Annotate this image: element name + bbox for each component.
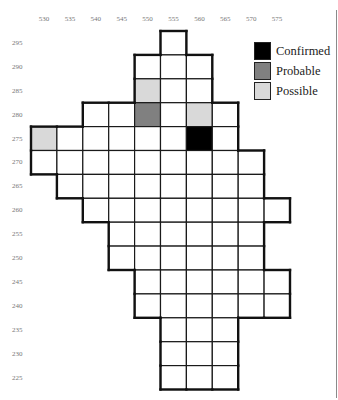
x-tick-label: 535 [57, 15, 83, 23]
x-tick-label: 550 [135, 15, 161, 23]
y-tick-label: 260 [12, 206, 36, 214]
x-tick-label: 565 [212, 15, 238, 23]
frame-divider-line [336, 10, 337, 398]
y-tick-label: 285 [12, 87, 36, 95]
grid-cell [212, 127, 238, 151]
grid-cell [161, 222, 187, 246]
grid-cell [186, 246, 212, 270]
grid-cell [57, 151, 83, 175]
grid-cell [161, 31, 187, 55]
grid-cell [135, 127, 161, 151]
grid-cell [212, 246, 238, 270]
grid-cell [212, 222, 238, 246]
grid-cell [186, 174, 212, 198]
legend-item-probable: Probable [254, 62, 338, 82]
grid-cell [135, 294, 161, 318]
y-tick-label: 250 [12, 254, 36, 262]
grid-cell [264, 270, 290, 294]
y-tick-label: 230 [12, 350, 36, 358]
grid-cell [212, 174, 238, 198]
y-tick-label: 290 [12, 63, 36, 71]
grid-cell [135, 222, 161, 246]
grid-cell [83, 174, 109, 198]
y-tick-label: 235 [12, 326, 36, 334]
legend-item-confirmed: Confirmed [254, 42, 338, 62]
legend-item-possible: Possible [254, 82, 338, 102]
grid-cell [212, 198, 238, 222]
x-tick-label: 560 [186, 15, 212, 23]
grid-cell [83, 151, 109, 175]
grid-cell [161, 246, 187, 270]
legend-label-confirmed: Confirmed [276, 43, 330, 59]
y-tick-label: 245 [12, 278, 36, 286]
grid-cell [57, 174, 83, 198]
probable-swatch [254, 62, 271, 80]
y-tick-label: 240 [12, 302, 36, 310]
grid-cell [238, 174, 264, 198]
grid-cell [161, 198, 187, 222]
grid-cell [186, 151, 212, 175]
legend-label-probable: Probable [276, 63, 320, 79]
grid-cell [264, 198, 290, 222]
x-tick-label: 575 [264, 15, 290, 23]
y-tick-label: 280 [12, 111, 36, 119]
grid-cell [109, 127, 135, 151]
highlighted-grid-cell [186, 127, 212, 151]
grid-cell [238, 222, 264, 246]
y-tick-label: 255 [12, 230, 36, 238]
highlighted-grid-cell [186, 103, 212, 127]
x-tick-label: 540 [83, 15, 109, 23]
x-tick-label: 530 [31, 15, 57, 23]
grid-cell [212, 342, 238, 366]
grid-cell [135, 174, 161, 198]
x-tick-label: 545 [109, 15, 135, 23]
grid-cell [161, 151, 187, 175]
highlighted-grid-cell [135, 79, 161, 103]
grid-cell [238, 246, 264, 270]
grid-cell [161, 366, 187, 390]
grid-cell [186, 294, 212, 318]
grid-cell [135, 55, 161, 79]
grid-cell [83, 103, 109, 127]
grid-cell [212, 366, 238, 390]
grid-cell [109, 198, 135, 222]
grid-cell [83, 198, 109, 222]
grid-cell [161, 55, 187, 79]
grid-cell [186, 342, 212, 366]
grid-cell [212, 151, 238, 175]
grid-cell [212, 103, 238, 127]
grid-cell [161, 174, 187, 198]
grid-cell [238, 294, 264, 318]
grid-cell [186, 366, 212, 390]
grid-cell [83, 127, 109, 151]
grid-cell [109, 246, 135, 270]
highlighted-grid-cell [135, 103, 161, 127]
grid-cell [109, 151, 135, 175]
grid-cell [161, 318, 187, 342]
grid-cell [161, 127, 187, 151]
grid-cell [109, 222, 135, 246]
y-tick-label: 295 [12, 39, 36, 47]
grid-cell [238, 270, 264, 294]
grid-cell [135, 198, 161, 222]
grid-cell [135, 270, 161, 294]
grid-cell [238, 151, 264, 175]
grid-cell [109, 174, 135, 198]
grid-cell [186, 55, 212, 79]
grid-cell [186, 222, 212, 246]
grid-cell [161, 342, 187, 366]
grid-cell [135, 246, 161, 270]
grid-cell [186, 318, 212, 342]
grid-cell [212, 294, 238, 318]
y-tick-label: 265 [12, 182, 36, 190]
grid-cell [186, 79, 212, 103]
grid-cell [135, 151, 161, 175]
x-tick-label: 555 [161, 15, 187, 23]
grid-cell [238, 198, 264, 222]
grid-cell [212, 270, 238, 294]
grid-cell [186, 198, 212, 222]
grid-cell [264, 294, 290, 318]
grid-cell [161, 294, 187, 318]
grid-cell [212, 318, 238, 342]
legend: Confirmed Probable Possible [254, 42, 338, 102]
